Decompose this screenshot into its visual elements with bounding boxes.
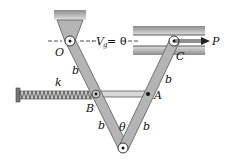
label-P: P — [211, 35, 220, 48]
rod-BA — [96, 91, 148, 97]
label-A: A — [153, 89, 162, 102]
label-b-lower-left: b — [98, 119, 105, 132]
label-b-upper-left: b — [72, 64, 79, 77]
label-b-upper-right: b — [165, 73, 172, 86]
pin-A — [146, 92, 150, 96]
label-C: C — [176, 50, 185, 63]
linkage-diagram: O C P k B A θ b b b b V g = 0 — [0, 0, 229, 163]
label-Vg-eq: = 0 — [107, 35, 127, 48]
label-k: k — [55, 76, 62, 89]
pin-B — [92, 90, 100, 98]
label-theta: θ — [119, 121, 126, 134]
spring — [16, 88, 92, 102]
pin-bottom — [118, 143, 128, 153]
fixed-support-ground — [54, 10, 86, 20]
guide-upper — [133, 26, 205, 35]
label-O: O — [55, 46, 64, 59]
pin-C — [169, 36, 179, 46]
label-b-lower-right: b — [143, 120, 150, 133]
label-B: B — [85, 102, 94, 115]
pin-O — [65, 36, 75, 46]
